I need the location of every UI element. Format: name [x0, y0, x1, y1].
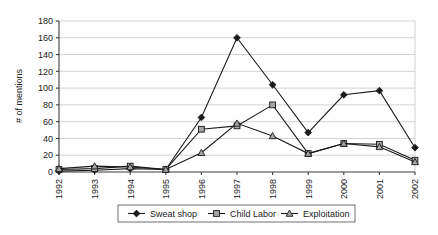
x-tick-label: 2001	[375, 179, 385, 199]
x-tick-label: 1999	[304, 179, 314, 199]
legend-label: Sweat shop	[150, 209, 197, 219]
data-point-square	[270, 102, 276, 108]
y-tick-label: 120	[38, 67, 53, 77]
y-tick-label: 40	[43, 134, 53, 144]
y-tick-label: 20	[43, 150, 53, 160]
legend-label: Exploitation	[303, 209, 350, 219]
x-tick-label: 2000	[339, 179, 349, 199]
x-tick-label: 1992	[54, 179, 64, 199]
line-chart: 020406080100120140160180 199219931994199…	[0, 0, 438, 235]
data-point-square	[199, 126, 205, 132]
data-point-square	[214, 211, 220, 217]
y-axis-title: # of mentions	[14, 68, 24, 123]
chart-figure: 020406080100120140160180 199219931994199…	[0, 0, 438, 235]
y-tick-label: 80	[43, 100, 53, 110]
x-tick-label: 1997	[232, 179, 242, 199]
y-tick-label: 60	[43, 117, 53, 127]
y-tick-label: 140	[38, 50, 53, 60]
y-tick-label: 180	[38, 16, 53, 26]
y-tick-label: 100	[38, 83, 53, 93]
legend-label: Child Labor	[230, 209, 276, 219]
plot-area-background	[59, 21, 415, 172]
y-tick-label: 160	[38, 33, 53, 43]
x-tick-label: 1993	[90, 179, 100, 199]
chart-legend: Sweat shopChild LaborExploitation	[118, 205, 355, 222]
x-tick-label: 2002	[410, 179, 420, 199]
x-tick-label: 1998	[268, 179, 278, 199]
x-tick-label: 1994	[126, 179, 136, 199]
x-tick-label: 1995	[161, 179, 171, 199]
y-tick-label: 0	[48, 167, 53, 177]
x-tick-label: 1996	[197, 179, 207, 199]
